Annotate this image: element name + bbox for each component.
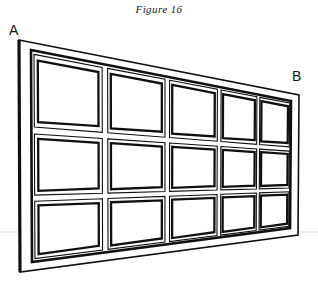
panel-face-r1-c5 (261, 101, 288, 143)
panel-face-r2-c2 (111, 143, 162, 189)
panel-face-r3-c3 (172, 198, 214, 238)
gate-perspective-drawing (0, 0, 318, 288)
panel-face-r2-c5 (261, 152, 288, 186)
panel-face-r1-c3 (172, 85, 215, 136)
panel-face-r2-c4 (223, 150, 255, 187)
figure-panel: Figure 16 A B (0, 0, 318, 288)
panel-face-r3-c4 (223, 196, 255, 232)
panel-face-r1-c4 (223, 94, 255, 140)
panel-face-r3-c1 (38, 203, 98, 254)
near-stile-edge (19, 40, 20, 272)
panel-face-r1-c1 (38, 61, 99, 127)
panel-face-r2-c3 (172, 147, 214, 188)
corner-label-b: B (292, 68, 301, 84)
panel-face-r3-c2 (111, 200, 162, 245)
panel-face-r2-c1 (38, 139, 99, 191)
corner-label-a: A (9, 22, 18, 38)
panel-face-r3-c5 (261, 195, 288, 228)
panel-face-r1-c2 (111, 74, 162, 132)
